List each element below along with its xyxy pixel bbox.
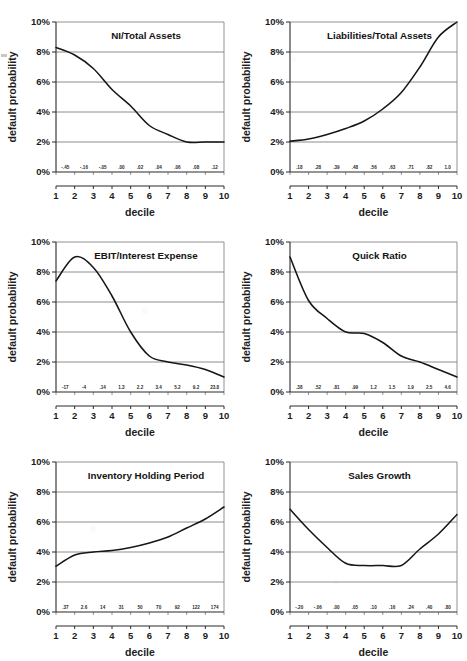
bin-tick-label: 2.2	[137, 385, 144, 390]
y-axis-title: default probability	[240, 51, 252, 142]
x-tick-label: 4	[343, 190, 349, 201]
plot-area	[56, 462, 224, 612]
bin-tick-label: -4	[82, 385, 87, 390]
x-tick-label: 4	[343, 630, 349, 641]
chart-svg-1: 0%2%4%6%8%10%default probability.18.28.3…	[234, 0, 467, 220]
bin-tick-label: .52	[315, 385, 322, 390]
x-tick-label: 8	[417, 410, 422, 421]
bin-tick-label: 3.4	[155, 385, 162, 390]
x-tick-label: 8	[417, 630, 422, 641]
chart-title: NI/Total Assets	[111, 30, 181, 41]
y-tick-label: 8%	[270, 486, 284, 497]
y-tick-label: 0%	[270, 386, 284, 397]
y-tick-label: 8%	[270, 266, 284, 277]
x-tick-label: 7	[399, 630, 404, 641]
y-tick-label: 6%	[36, 296, 50, 307]
x-tick-label: 5	[362, 630, 368, 641]
x-tick-label: 8	[417, 190, 422, 201]
x-tick-label: 9	[436, 630, 441, 641]
bin-tick-label: 92	[175, 605, 181, 610]
x-tick-label: 8	[184, 190, 189, 201]
x-tick-label: 3	[324, 190, 329, 201]
bin-tick-label: -.06	[314, 605, 322, 610]
x-axis-title: decile	[125, 646, 155, 658]
y-tick-label: 6%	[270, 296, 284, 307]
bin-tick-label: .82	[426, 165, 433, 170]
x-tick-label: 3	[324, 630, 329, 641]
bin-tick-label: .28	[315, 165, 322, 170]
x-tick-label: 4	[109, 410, 115, 421]
x-tick-label: 8	[184, 410, 189, 421]
x-tick-label: 6	[380, 190, 385, 201]
y-tick-label: 6%	[36, 516, 50, 527]
x-tick-label: 4	[109, 630, 115, 641]
y-tick-label: 2%	[36, 576, 50, 587]
bin-tick-label: .02	[137, 165, 144, 170]
bin-tick-label: .08	[193, 165, 200, 170]
bin-tick-label: .63	[389, 165, 396, 170]
bin-tick-label: 14	[100, 605, 106, 610]
y-tick-label: 8%	[36, 46, 50, 57]
bin-tick-label: 1.3	[118, 385, 125, 390]
x-tick-label: 10	[452, 410, 463, 421]
bin-tick-label: .12	[211, 165, 218, 170]
x-tick-label: 5	[128, 190, 134, 201]
y-tick-label: 10%	[31, 16, 51, 27]
x-tick-label: 6	[147, 410, 152, 421]
y-tick-label: 0%	[36, 386, 50, 397]
bin-tick-label: -.16	[80, 165, 88, 170]
y-tick-label: 10%	[265, 456, 285, 467]
bin-tick-label: 5.2	[174, 385, 181, 390]
x-tick-label: 5	[362, 190, 368, 201]
x-tick-label: 6	[147, 190, 152, 201]
bin-tick-label: .71	[407, 165, 414, 170]
x-tick-label: 2	[72, 630, 77, 641]
bin-tick-label: 31	[119, 605, 125, 610]
y-tick-label: 0%	[270, 606, 284, 617]
chart-title: Quick Ratio	[352, 250, 406, 261]
x-tick-label: 1	[287, 190, 293, 201]
chart-panel-2: 0%2%4%6%8%10%default probability-17-4.14…	[0, 220, 234, 440]
chart-title: EBIT/Interest Expense	[94, 250, 198, 261]
x-tick-label: 7	[399, 410, 404, 421]
x-tick-label: 5	[362, 410, 368, 421]
y-tick-label: 0%	[270, 166, 284, 177]
bin-tick-label: -.05	[99, 165, 107, 170]
x-tick-label: 8	[184, 630, 189, 641]
y-axis-title: default probability	[6, 51, 18, 142]
bin-tick-label: 122	[192, 605, 200, 610]
y-tick-label: 8%	[36, 266, 50, 277]
y-tick-label: 4%	[36, 546, 50, 557]
x-tick-label: 2	[72, 410, 77, 421]
bin-tick-label: .80	[445, 605, 452, 610]
chart-panel-4: 0%2%4%6%8%10%default probability.372.614…	[0, 440, 234, 661]
chart-grid: 0%2%4%6%8%10%default probability-.45-.16…	[0, 0, 467, 661]
y-tick-label: 10%	[265, 16, 285, 27]
x-tick-label: 9	[203, 410, 208, 421]
x-tick-label: 3	[91, 190, 96, 201]
bin-tick-label: 1.2	[370, 385, 377, 390]
x-tick-label: 6	[380, 630, 385, 641]
x-tick-label: 1	[287, 410, 293, 421]
bin-tick-label: .37	[62, 605, 69, 610]
x-tick-label: 2	[72, 190, 77, 201]
x-tick-label: 9	[436, 190, 441, 201]
bin-tick-label: 70	[156, 605, 162, 610]
chart-svg-4: 0%2%4%6%8%10%default probability.372.614…	[0, 440, 234, 661]
bin-tick-label: .05	[352, 605, 359, 610]
x-axis-title: decile	[359, 426, 389, 438]
x-axis-title: decile	[359, 646, 389, 658]
bin-tick-label: 2.5	[426, 385, 433, 390]
plot-area	[290, 22, 457, 172]
bin-tick-label: .06	[174, 165, 181, 170]
bin-tick-label: .04	[155, 165, 162, 170]
y-tick-label: 6%	[270, 516, 284, 527]
bin-tick-label: .48	[352, 165, 359, 170]
bin-tick-label: .99	[352, 385, 359, 390]
y-tick-label: 10%	[31, 456, 51, 467]
bin-tick-label: 2.6	[81, 605, 88, 610]
y-tick-label: 2%	[270, 356, 284, 367]
y-tick-label: 4%	[270, 106, 284, 117]
x-tick-label: 10	[452, 190, 463, 201]
bin-tick-label: 1.9	[407, 385, 414, 390]
